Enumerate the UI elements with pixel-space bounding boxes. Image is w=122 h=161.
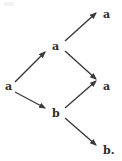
edge-upper-to-leaf-middle (65, 51, 96, 79)
tree-diagram: a a b a a b. (0, 0, 122, 161)
edge-upper-to-leaf-top (65, 13, 96, 41)
edge-lower-to-leaf-bottom (65, 118, 96, 145)
tree-node-upper: a (52, 41, 59, 52)
edge-lower-to-leaf-middle (65, 81, 96, 108)
tree-node-root: a (5, 81, 12, 92)
edge-root-to-upper (15, 52, 45, 82)
edge-root-to-lower (15, 92, 45, 108)
tree-leaf-middle: a (103, 81, 110, 92)
tree-leaf-bottom: b. (103, 145, 115, 156)
tree-leaf-top: a (103, 9, 110, 20)
tree-node-lower: b (52, 108, 60, 119)
